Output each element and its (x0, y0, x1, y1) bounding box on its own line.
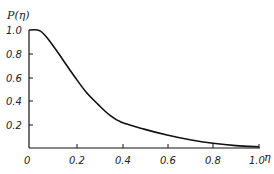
x-tick-label-1.0: 1.0 (249, 155, 265, 166)
x-axis-title: η (264, 151, 271, 164)
y-tick-label-0.4: 0.4 (6, 96, 22, 107)
line-chart: 1.0 0.8 0.6 0.4 0.2 0 0.2 0.4 0.6 0.8 1.… (0, 0, 274, 174)
y-tick-label-0.8: 0.8 (6, 49, 22, 60)
y-tick-label-0.2: 0.2 (6, 120, 22, 131)
x-tick-label-0.8: 0.8 (205, 155, 221, 166)
x-tick-label-0.4: 0.4 (115, 155, 131, 166)
y-tick-label-0.6: 0.6 (6, 73, 22, 84)
y-axis-title: P(η) (6, 9, 30, 22)
data-curve (29, 30, 259, 147)
x-tick-label-0: 0 (24, 155, 30, 166)
x-tick-label-0.2: 0.2 (69, 155, 85, 166)
y-tick-label-1.0: 1.0 (6, 25, 22, 36)
x-tick-label-0.6: 0.6 (160, 155, 176, 166)
